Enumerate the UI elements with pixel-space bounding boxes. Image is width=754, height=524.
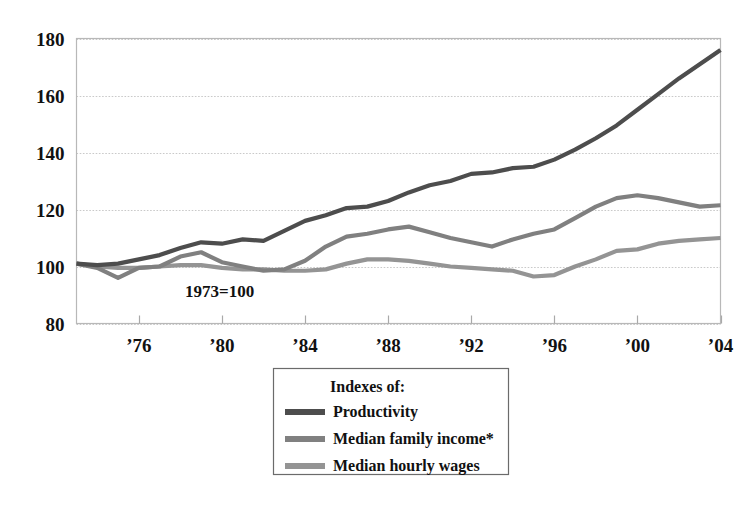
- xtick-label-1996: ’96: [542, 335, 567, 356]
- ytick-label-80: 80: [46, 314, 65, 335]
- xtick-label-2004: ’04: [708, 335, 734, 356]
- legend-label-2: Median hourly wages: [333, 457, 480, 475]
- ytick-label-120: 120: [36, 200, 65, 221]
- xtick-label-1976: ’76: [126, 335, 151, 356]
- legend-label-0: Productivity: [333, 403, 418, 421]
- xtick-label-1984: ’84: [292, 335, 318, 356]
- xtick-label-1988: ’88: [375, 335, 400, 356]
- x-tick-labels: ’76’80’84’88’92’96’00’04: [126, 335, 734, 356]
- gridlines: [77, 40, 721, 325]
- ytick-label-140: 140: [36, 143, 65, 164]
- series-line-productivity: [77, 50, 721, 265]
- ytick-label-100: 100: [36, 257, 65, 278]
- line-chart-svg: 80100120140160180 ’76’80’84’88’92’96’00’…: [0, 0, 754, 524]
- xtick-label-2000: ’00: [625, 335, 650, 356]
- ytick-label-160: 160: [36, 86, 65, 107]
- chart-figure: 80100120140160180 ’76’80’84’88’92’96’00’…: [0, 0, 754, 524]
- xtick-label-1992: ’92: [459, 335, 484, 356]
- plot-frame: [77, 39, 721, 324]
- series-line-median-hourly-wages: [77, 238, 721, 276]
- x-tickmarks: [140, 316, 722, 324]
- legend-title: Indexes of:: [330, 378, 405, 395]
- y-tick-labels: 80100120140160180: [36, 29, 65, 335]
- legend-label-1: Median family income*: [333, 430, 494, 448]
- xtick-label-1980: ’80: [209, 335, 234, 356]
- series-lines: [77, 50, 721, 278]
- ytick-label-180: 180: [36, 29, 65, 50]
- baseline-annotation: 1973=100: [185, 282, 254, 301]
